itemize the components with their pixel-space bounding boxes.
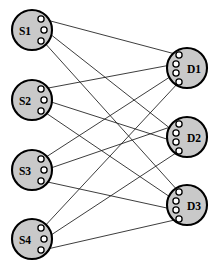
edge-S1-D2 — [45, 30, 176, 133]
node-S3[interactable]: S3 — [12, 150, 52, 190]
edge-layer — [43, 19, 179, 250]
D2-port-3[interactable] — [173, 139, 179, 145]
edge-S4-D3 — [43, 219, 179, 250]
D3-port-2[interactable] — [173, 198, 179, 204]
S1-port-2[interactable] — [41, 27, 47, 33]
node-D2[interactable]: D2 — [167, 117, 207, 157]
edge-S2-D1 — [43, 64, 176, 89]
node-S2-label: S2 — [19, 95, 31, 107]
S4-port-2[interactable] — [41, 236, 47, 242]
S3-port-1[interactable] — [38, 156, 44, 162]
node-D2-label: D2 — [187, 132, 201, 144]
edge-S3-D2 — [45, 124, 179, 170]
node-D3[interactable]: D3 — [167, 185, 207, 225]
node-D1[interactable]: D1 — [167, 48, 207, 88]
S2-port-3[interactable] — [38, 108, 44, 114]
node-S4-label: S4 — [19, 234, 31, 246]
D3-port-3[interactable] — [173, 207, 179, 213]
edge-S1-D3 — [43, 41, 179, 192]
S2-port-1[interactable] — [38, 86, 44, 92]
graph-canvas: S1S2S3S4D1D2D3 — [0, 0, 219, 270]
node-layer: S1S2S3S4D1D2D3 — [12, 10, 207, 259]
node-S4[interactable]: S4 — [12, 219, 52, 259]
S4-port-3[interactable] — [38, 247, 44, 253]
node-S1[interactable]: S1 — [12, 10, 52, 50]
D1-port-1[interactable] — [176, 52, 182, 58]
S2-port-2[interactable] — [41, 97, 47, 103]
edge-S4-D2 — [45, 151, 179, 239]
node-S2[interactable]: S2 — [12, 80, 52, 120]
node-D1-label: D1 — [187, 63, 201, 75]
node-S3-label: S3 — [19, 165, 31, 177]
D1-port-2[interactable] — [173, 61, 179, 67]
bipartite-graph-diagram: S1S2S3S4D1D2D3 — [0, 0, 219, 270]
D3-port-1[interactable] — [176, 189, 182, 195]
edge-S3-D1 — [43, 73, 176, 159]
S1-port-3[interactable] — [38, 38, 44, 44]
D3-port-4[interactable] — [176, 216, 182, 222]
D2-port-1[interactable] — [176, 121, 182, 127]
edge-S1-D1 — [43, 19, 179, 55]
S4-port-1[interactable] — [38, 225, 44, 231]
D1-port-3[interactable] — [173, 70, 179, 76]
node-S1-label: S1 — [19, 25, 31, 37]
D2-port-2[interactable] — [173, 130, 179, 136]
S3-port-2[interactable] — [41, 167, 47, 173]
D1-port-4[interactable] — [176, 79, 182, 85]
S1-port-1[interactable] — [38, 16, 44, 22]
S3-port-3[interactable] — [38, 178, 44, 184]
node-D3-label: D3 — [187, 200, 201, 212]
D2-port-4[interactable] — [176, 148, 182, 154]
edge-S3-D3 — [43, 181, 176, 210]
